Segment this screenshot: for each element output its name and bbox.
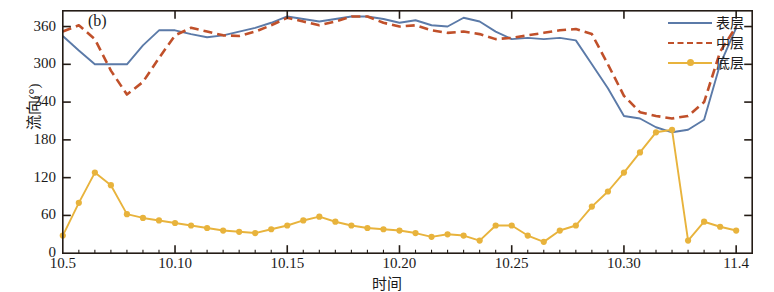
series-marker bbox=[332, 219, 338, 225]
series-marker bbox=[92, 170, 98, 176]
series-marker bbox=[428, 234, 434, 240]
series-marker bbox=[412, 230, 418, 236]
series-marker bbox=[76, 200, 82, 206]
series-marker bbox=[220, 227, 226, 233]
series-marker bbox=[461, 232, 467, 238]
tick-marks bbox=[63, 11, 752, 253]
legend-swatch-icon bbox=[668, 57, 712, 69]
series-marker bbox=[477, 238, 483, 244]
series-marker bbox=[701, 219, 707, 225]
legend-label: 中层 bbox=[716, 36, 744, 50]
legend-swatch-icon bbox=[668, 17, 712, 29]
series-marker bbox=[557, 227, 563, 233]
legend-item[interactable]: 中层 bbox=[668, 34, 744, 51]
series-marker bbox=[316, 214, 322, 220]
series-marker bbox=[589, 204, 595, 210]
series-marker bbox=[733, 227, 739, 233]
legend-item[interactable]: 表层 bbox=[668, 14, 744, 31]
series-marker bbox=[204, 225, 210, 231]
series-marker bbox=[493, 222, 499, 228]
series-marker bbox=[364, 225, 370, 231]
series-marker bbox=[348, 222, 354, 228]
series-marker bbox=[156, 217, 162, 223]
series-marker bbox=[172, 220, 178, 226]
legend-swatch-icon bbox=[668, 37, 712, 49]
series-marker bbox=[509, 222, 515, 228]
series-marker bbox=[124, 211, 130, 217]
series-group bbox=[60, 16, 740, 244]
series-marker bbox=[252, 230, 258, 236]
series-line bbox=[63, 16, 736, 132]
series-marker bbox=[188, 222, 194, 228]
series-marker bbox=[268, 226, 274, 232]
series-marker bbox=[717, 224, 723, 230]
series-line bbox=[63, 130, 736, 242]
series-marker bbox=[653, 129, 659, 135]
series-marker bbox=[444, 231, 450, 237]
series-marker bbox=[685, 238, 691, 244]
series-marker bbox=[573, 222, 579, 228]
plot-canvas bbox=[0, 0, 774, 292]
plot-frame bbox=[63, 11, 752, 253]
legend: 表层中层底层 bbox=[668, 14, 744, 71]
legend-label: 表层 bbox=[716, 16, 744, 30]
series-line bbox=[63, 16, 736, 118]
series-marker bbox=[541, 239, 547, 245]
series-marker bbox=[525, 232, 531, 238]
series-marker bbox=[605, 188, 611, 194]
series-marker bbox=[108, 182, 114, 188]
chart-figure: 流向(°) 060120180240300360 10.510.1010.151… bbox=[0, 0, 774, 292]
series-marker bbox=[669, 127, 675, 133]
series-marker bbox=[396, 227, 402, 233]
legend-item[interactable]: 底层 bbox=[668, 54, 744, 71]
series-marker bbox=[140, 215, 146, 221]
legend-label: 底层 bbox=[716, 56, 744, 70]
series-marker bbox=[300, 217, 306, 223]
series-marker bbox=[621, 170, 627, 176]
series-marker bbox=[380, 226, 386, 232]
series-marker bbox=[637, 149, 643, 155]
series-marker bbox=[284, 222, 290, 228]
series-marker bbox=[236, 229, 242, 235]
